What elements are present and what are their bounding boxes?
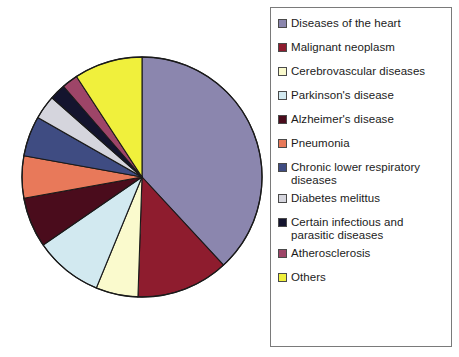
legend-swatch-alzheimers-disease	[278, 115, 287, 124]
legend-item-pneumonia[interactable]: Pneumonia	[278, 137, 445, 150]
legend-swatch-parkinsons-disease	[278, 91, 287, 100]
pie-plot-area	[0, 0, 268, 357]
legend-swatch-diseases-of-the-heart	[278, 19, 287, 28]
legend-label-others: Others	[290, 271, 445, 284]
legend-swatch-others	[278, 273, 287, 282]
legend-label-chronic-lower-respiratory-diseases: Chronic lower respiratory diseases	[290, 161, 445, 187]
legend-item-certain-infectious-and-parasitic-diseases[interactable]: Certain infectious and parasitic disease…	[278, 216, 445, 242]
chart-legend: Diseases of the heartMalignant neoplasmC…	[270, 7, 452, 347]
legend-item-alzheimers-disease[interactable]: Alzheimer's disease	[278, 113, 445, 126]
legend-swatch-malignant-neoplasm	[278, 43, 287, 52]
legend-label-pneumonia: Pneumonia	[290, 137, 445, 150]
legend-item-others[interactable]: Others	[278, 271, 445, 284]
legend-item-diabetes-melittus[interactable]: Diabetes melittus	[278, 192, 445, 205]
legend-swatch-diabetes-melittus	[278, 194, 287, 203]
legend-item-atherosclerosis[interactable]: Atherosclerosis	[278, 247, 445, 260]
legend-label-malignant-neoplasm: Malignant neoplasm	[290, 41, 445, 54]
legend-swatch-pneumonia	[278, 139, 287, 148]
legend-label-atherosclerosis: Atherosclerosis	[290, 247, 445, 260]
legend-item-diseases-of-the-heart[interactable]: Diseases of the heart	[278, 17, 445, 30]
legend-label-alzheimers-disease: Alzheimer's disease	[290, 113, 445, 126]
legend-swatch-chronic-lower-respiratory-diseases	[278, 163, 287, 172]
legend-label-diseases-of-the-heart: Diseases of the heart	[290, 17, 445, 30]
legend-label-diabetes-melittus: Diabetes melittus	[290, 192, 445, 205]
legend-swatch-atherosclerosis	[278, 249, 287, 258]
legend-item-chronic-lower-respiratory-diseases[interactable]: Chronic lower respiratory diseases	[278, 161, 445, 187]
legend-item-malignant-neoplasm[interactable]: Malignant neoplasm	[278, 41, 445, 54]
pie-svg	[0, 0, 268, 357]
legend-item-parkinsons-disease[interactable]: Parkinson's disease	[278, 89, 445, 102]
legend-swatch-cerebrovascular-diseases	[278, 67, 287, 76]
legend-label-cerebrovascular-diseases: Cerebrovascular diseases	[290, 65, 445, 78]
legend-item-cerebrovascular-diseases[interactable]: Cerebrovascular diseases	[278, 65, 445, 78]
pie-chart-figure: Diseases of the heartMalignant neoplasmC…	[0, 0, 459, 357]
legend-label-parkinsons-disease: Parkinson's disease	[290, 89, 445, 102]
legend-label-certain-infectious-and-parasitic-diseases: Certain infectious and parasitic disease…	[290, 216, 445, 242]
legend-swatch-certain-infectious-and-parasitic-diseases	[278, 218, 287, 227]
legend-items-list: Diseases of the heartMalignant neoplasmC…	[278, 17, 445, 284]
